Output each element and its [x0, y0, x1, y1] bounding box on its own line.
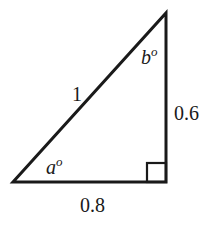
vertical-side-label: 0.6	[174, 102, 199, 124]
angle-a-degree: o	[56, 154, 63, 169]
angle-b-label: bo	[141, 44, 158, 68]
angle-a-letter: a	[46, 156, 56, 178]
right-angle-marker	[147, 163, 166, 182]
right-triangle-diagram: 1 0.6 0.8 ao bo	[0, 0, 214, 226]
angle-b-degree: o	[151, 44, 158, 59]
hypotenuse-label: 1	[72, 83, 82, 105]
angle-a-label: ao	[46, 154, 63, 178]
angle-b-letter: b	[141, 46, 151, 68]
horizontal-side-label: 0.8	[80, 194, 105, 216]
triangle	[13, 13, 166, 182]
